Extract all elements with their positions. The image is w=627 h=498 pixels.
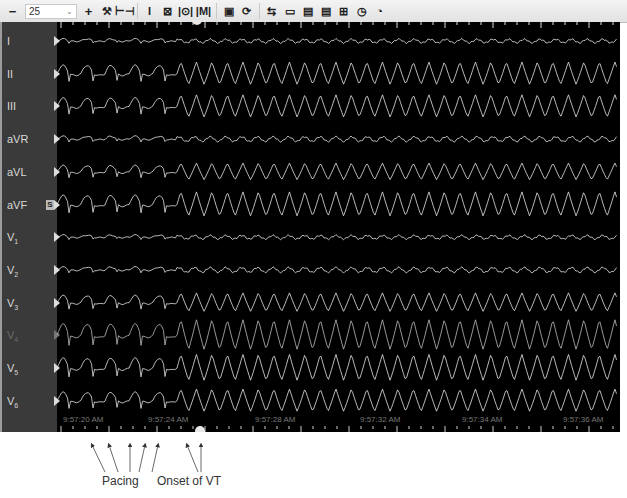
lead-label: V6 [7, 395, 18, 409]
toolbar-separator [216, 3, 217, 19]
ecg-panel: IIIIIIaVRaVLaVFSV1V2V3V4V5V6 9:57:20 AM9… [0, 22, 620, 432]
interval-measure-alt-icon[interactable]: |M| [195, 2, 212, 20]
onset-arrows [187, 445, 201, 472]
time-label: 9:57:34 AM [462, 415, 502, 424]
lead-subscript: 2 [14, 271, 18, 278]
clock-icon[interactable]: ◷ [353, 2, 370, 20]
lead-name: aVR [7, 133, 28, 145]
annotations: Pacing Onset of VT [0, 432, 627, 498]
cycle-icon[interactable]: ⟳ [238, 2, 255, 20]
annotation-arrows [0, 432, 627, 477]
lead-subscript: 1 [14, 238, 18, 245]
lead-badge[interactable]: S [46, 200, 54, 210]
lead-name: aVL [7, 166, 27, 178]
ecg-traces [57, 22, 620, 432]
lead-subscript: 3 [14, 304, 18, 311]
vertical-caliper-icon[interactable]: I [141, 2, 158, 20]
split-icon[interactable]: ⇆ [263, 2, 280, 20]
time-label: 9:57:32 AM [360, 415, 400, 424]
lead-name: III [7, 100, 16, 112]
lead-subscript: 4 [14, 336, 18, 343]
chevron-down-icon: ⌄ [66, 7, 73, 16]
lead-subscript: 6 [14, 402, 18, 409]
time-label: 9:57:24 AM [148, 415, 188, 424]
lead-name: II [7, 68, 13, 80]
lead-label: I [7, 35, 10, 47]
pacing-label: Pacing [102, 474, 139, 488]
print-alt-icon[interactable]: ▤ [317, 2, 334, 20]
lead-label: aVL [7, 166, 27, 178]
onset-of-vt-label: Onset of VT [157, 474, 221, 488]
toolbar-separator [259, 3, 260, 19]
interval-measure-icon[interactable]: |⊙| [177, 2, 194, 20]
time-label: 9:57:20 AM [63, 415, 103, 424]
lead-label: V5 [7, 362, 18, 376]
box-x-icon[interactable]: ⊠ [159, 2, 176, 20]
settings-tools-icon[interactable]: ⚒ [98, 2, 115, 20]
lead-subscript: 5 [14, 369, 18, 376]
zoom-in-button[interactable]: + [80, 2, 97, 20]
monitor-icon[interactable]: ▣ [220, 2, 237, 20]
folder-icon[interactable]: ▭ [281, 2, 298, 20]
stopwatch-icon[interactable]: ◔ [371, 2, 388, 20]
lead-label: V4 [7, 329, 18, 343]
toolbar-separator [137, 3, 138, 19]
lead-label: V1 [7, 231, 18, 245]
toolbar-empty-area [389, 0, 627, 22]
print-icon[interactable]: ▤ [299, 2, 316, 20]
lead-label-column: IIIIIIaVRaVLaVFSV1V2V3V4V5V6 [0, 22, 57, 432]
toolbar: − 25 ⌄ + ⚒⊢⊣I⊠|⊙||M|▣⟳⇆▭▤▤⊞◷◔ [0, 0, 627, 23]
lead-label: aVR [7, 133, 28, 145]
grid-icon[interactable]: ⊞ [335, 2, 352, 20]
lead-name: aVF [7, 199, 27, 211]
zoom-level-value: 25 [29, 6, 40, 17]
lead-label: aVF [7, 199, 27, 211]
zoom-out-button[interactable]: − [4, 2, 21, 20]
time-label: 9:57:28 AM [255, 415, 295, 424]
time-label: 9:57:36 AM [563, 415, 603, 424]
lead-label: II [7, 68, 13, 80]
horizontal-caliper-icon[interactable]: ⊢⊣ [116, 2, 133, 20]
zoom-level-select[interactable]: 25 ⌄ [25, 4, 77, 19]
pacing-arrows [92, 445, 158, 472]
lead-label: III [7, 100, 16, 112]
lead-label: V2 [7, 264, 18, 278]
lead-name: I [7, 35, 10, 47]
lead-label: V3 [7, 297, 18, 311]
